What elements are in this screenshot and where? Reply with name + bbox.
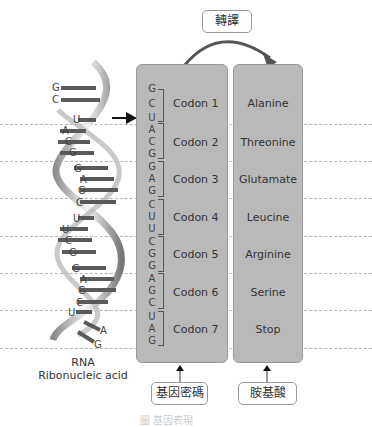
codon-bracket <box>158 161 164 197</box>
helix-base: G <box>69 148 77 158</box>
helix-base: G <box>78 186 86 196</box>
helix-base: G <box>94 340 102 350</box>
helix-base: G <box>52 83 60 93</box>
codon-base: U <box>147 212 157 222</box>
codon-base: G <box>147 84 157 94</box>
codon-label: Codon 1 <box>173 97 233 110</box>
codon-label: Codon 6 <box>173 286 233 299</box>
codon-base: C <box>147 99 157 109</box>
codon-bracket <box>158 199 164 235</box>
translation-label: 轉譯 <box>215 14 239 28</box>
codon-base: A <box>147 125 157 135</box>
amino-acid-label: Alanine <box>233 97 303 110</box>
helix-base: C <box>52 95 59 105</box>
codon-base: C <box>147 200 157 210</box>
codon-base: G <box>147 286 157 296</box>
codon-bracket <box>158 311 164 346</box>
codon-base: U <box>147 113 157 123</box>
pointer-arrow-icon <box>112 112 138 124</box>
amino-acid-label-box: 胺基酸 <box>238 382 297 405</box>
codon-base: U <box>147 312 157 322</box>
up-arrow-icon <box>263 365 271 383</box>
codon-bracket <box>158 89 164 122</box>
helix-base: C <box>76 298 83 308</box>
helix-base: G <box>69 248 77 258</box>
amino-acid-label: Leucine <box>233 211 303 224</box>
amino-acid-label: Threonine <box>233 136 303 149</box>
codon-label: Codon 4 <box>173 211 233 224</box>
rna-caption: RNA Ribonucleic acid <box>38 356 128 382</box>
curved-arrow-icon <box>180 28 280 68</box>
helix-base: A <box>62 126 69 136</box>
codon-base: C <box>147 298 157 308</box>
codon-base: G <box>147 249 157 259</box>
helix-base: U <box>73 115 80 125</box>
codon-base: A <box>147 274 157 284</box>
rna-full-name: Ribonucleic acid <box>38 369 128 382</box>
amino-acid-label: Glutamate <box>233 173 303 186</box>
amino-acid-heading: 胺基酸 <box>250 386 286 400</box>
codon-base: A <box>147 324 157 334</box>
genetic-code-label-box: 基因密碼 <box>151 382 208 405</box>
codon-label: Codon 5 <box>173 248 233 261</box>
amino-acid-label: Arginine <box>233 248 303 261</box>
helix-base: A <box>80 175 87 185</box>
codon-base: U <box>147 224 157 234</box>
up-arrow-icon <box>176 365 184 383</box>
codon-bracket <box>158 123 164 159</box>
helix-base: U <box>62 225 69 235</box>
helix-base: C <box>65 137 72 147</box>
helix-base: U <box>68 308 75 318</box>
codon-label: Codon 3 <box>173 173 233 186</box>
helix-base: A <box>80 275 87 285</box>
helix-base: G <box>72 264 80 274</box>
codon-bracket <box>158 273 164 309</box>
genetic-code-label: 基因密碼 <box>156 386 204 400</box>
helix-base: G <box>78 286 86 296</box>
codon-base: C <box>147 237 157 247</box>
codon-base: A <box>147 174 157 184</box>
rna-label: RNA <box>38 356 128 369</box>
codon-base: G <box>147 261 157 271</box>
faded-caption: 圖 基因表現 <box>140 412 193 427</box>
helix-base: C <box>76 198 83 208</box>
helix-base: A <box>100 326 107 336</box>
codon-base: G <box>147 162 157 172</box>
codon-base: G <box>147 149 157 159</box>
amino-acid-label: Stop <box>233 323 303 336</box>
codon-base: G <box>147 186 157 196</box>
codon-label: Codon 7 <box>173 323 233 336</box>
codon-base: C <box>147 137 157 147</box>
codon-label: Codon 2 <box>173 136 233 149</box>
helix-base: U <box>73 214 80 224</box>
helix-base: C <box>65 236 72 246</box>
amino-acid-label: Serine <box>233 286 303 299</box>
codon-bracket <box>158 236 164 272</box>
helix-base: G <box>74 164 82 174</box>
codon-base: G <box>147 336 157 346</box>
